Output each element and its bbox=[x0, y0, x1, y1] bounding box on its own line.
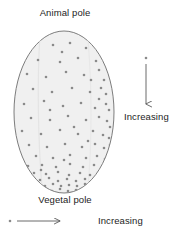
yolk-granule bbox=[94, 143, 97, 146]
yolk-granule bbox=[64, 143, 67, 146]
yolk-granule bbox=[98, 116, 101, 119]
yolk-granule bbox=[40, 133, 43, 136]
yolk-granule bbox=[110, 153, 113, 156]
yolk-granule bbox=[92, 180, 95, 183]
yolk-granule bbox=[30, 178, 33, 181]
yolk-granule bbox=[57, 171, 60, 174]
yolk-granule bbox=[100, 178, 103, 181]
yolk-granule bbox=[105, 103, 108, 106]
yolk-granule bbox=[69, 163, 72, 166]
yolk-granule bbox=[41, 164, 44, 167]
yolk-granule bbox=[39, 179, 42, 182]
yolk-granule bbox=[28, 144, 31, 147]
yolk-granule bbox=[85, 119, 88, 122]
yolk-granule bbox=[68, 184, 71, 187]
yolk-granule bbox=[98, 69, 101, 72]
yolk-granule bbox=[46, 146, 49, 149]
yolk-granule bbox=[103, 147, 106, 150]
granule-dot-icon bbox=[9, 220, 12, 223]
yolk-granule bbox=[59, 188, 62, 191]
yolk-granule bbox=[73, 126, 76, 129]
yolk-granule bbox=[76, 185, 79, 188]
yolk-granule bbox=[48, 177, 51, 180]
granule-dot-icon bbox=[145, 57, 148, 60]
yolk-granule bbox=[92, 185, 95, 188]
yolk-granule bbox=[30, 117, 33, 120]
yolk-granule bbox=[106, 120, 109, 123]
yolk-granule bbox=[59, 61, 62, 64]
yolk-granule bbox=[77, 133, 80, 136]
yolk-granule bbox=[51, 91, 54, 94]
yolk-granule bbox=[102, 134, 105, 137]
yolk-granule bbox=[79, 172, 82, 175]
yolk-granule bbox=[83, 190, 86, 193]
yolk-granule bbox=[105, 173, 108, 176]
yolk-granule bbox=[43, 189, 46, 192]
yolk-granule bbox=[59, 129, 62, 132]
yolk-granule bbox=[108, 164, 111, 167]
yolk-granule bbox=[108, 137, 111, 140]
yolk-granule bbox=[43, 100, 46, 103]
yolk-granule bbox=[62, 105, 65, 108]
yolk-granule bbox=[100, 87, 103, 90]
yolk-granule bbox=[45, 173, 48, 176]
yolk-granule bbox=[32, 88, 35, 91]
yolk-granule bbox=[83, 74, 86, 77]
yolk-granule bbox=[105, 93, 108, 96]
yolk-granule bbox=[69, 42, 72, 45]
yolk-granule bbox=[89, 91, 92, 94]
yolk-granule bbox=[23, 103, 26, 106]
yolk-granule bbox=[65, 71, 68, 74]
yolk-granule bbox=[52, 157, 55, 160]
yolk-granule bbox=[60, 185, 63, 188]
yolk-granule bbox=[96, 155, 99, 158]
yolk-granule bbox=[109, 126, 112, 129]
yolk-granule bbox=[94, 107, 97, 110]
egg-cell-outline bbox=[14, 31, 114, 193]
yolk-granule bbox=[90, 79, 93, 82]
yolk-granule bbox=[77, 57, 80, 60]
yolk-granule bbox=[57, 180, 60, 183]
yolk-granule bbox=[67, 190, 70, 193]
yolk-granule bbox=[37, 59, 40, 62]
yolk-granule bbox=[33, 172, 36, 175]
yolk-granule bbox=[26, 73, 29, 76]
yolk-granule bbox=[66, 178, 69, 181]
animal-pole-label: Animal pole bbox=[0, 7, 130, 18]
yolk-granule bbox=[87, 140, 90, 143]
yolk-granule bbox=[49, 119, 52, 122]
vegetal-pole-label: Vegetal pole bbox=[0, 194, 130, 205]
yolk-granule bbox=[71, 87, 74, 90]
yolk-granule bbox=[61, 51, 64, 54]
yolk-granule bbox=[98, 98, 101, 101]
yolk-granule bbox=[82, 166, 85, 169]
figure-container: Animal pole Vegetal pole Increasing Incr… bbox=[0, 0, 178, 237]
yolk-granule bbox=[68, 174, 71, 177]
yolk-granule bbox=[35, 155, 38, 158]
yolk-granule bbox=[85, 157, 88, 160]
yolk-granule bbox=[55, 166, 58, 169]
yolk-granule bbox=[103, 79, 106, 82]
horizontal-increasing-label: Increasing bbox=[98, 215, 143, 226]
yolk-granule bbox=[93, 164, 96, 167]
yolk-granule bbox=[75, 180, 78, 183]
yolk-granule bbox=[40, 169, 43, 172]
yolk-granule bbox=[49, 109, 52, 112]
yolk-granule bbox=[45, 76, 48, 79]
yolk-granule bbox=[81, 146, 84, 149]
yolk-granule bbox=[108, 109, 111, 112]
yolk-granule bbox=[52, 183, 55, 186]
horizontal-gradient-legend bbox=[9, 220, 60, 223]
yolk-granule bbox=[89, 174, 92, 177]
vertical-increasing-label: Increasing bbox=[124, 111, 169, 122]
yolk-granule bbox=[52, 44, 55, 47]
yolk-granule bbox=[36, 184, 39, 187]
yolk-granule bbox=[21, 130, 24, 133]
yolk-granule bbox=[84, 178, 87, 181]
yolk-granule bbox=[69, 154, 72, 157]
yolk-granule bbox=[67, 115, 70, 118]
yolk-granule bbox=[63, 159, 66, 162]
yolk-granule bbox=[85, 47, 88, 50]
yolk-granule bbox=[95, 60, 98, 63]
yolk-granule bbox=[102, 167, 105, 170]
